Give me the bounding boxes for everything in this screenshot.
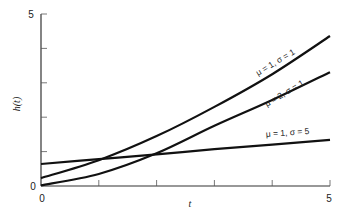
x-axis-label: t [189,198,192,209]
curve-label-mu1-sigma5: μ = 1, σ = 5 [265,126,310,139]
x-tick-label-min: 0 [39,193,45,204]
hazard-function-chart: 5 0 0 5 t h(t) μ = 1, σ = 1 μ = 2, σ = 1… [0,0,347,219]
curve-mu1-sigma5 [41,140,330,164]
y-tick-label-min: 0 [30,181,36,192]
x-tick-label-max: 5 [326,193,332,204]
y-tick-label-max: 5 [28,9,34,20]
curve-label-mu2-sigma1: μ = 2, σ = 1 [263,77,306,108]
y-axis-label: h(t) [11,96,23,111]
